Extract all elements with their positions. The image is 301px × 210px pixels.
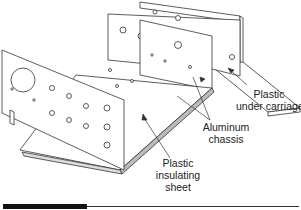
footer-bar: [3, 204, 87, 209]
label-line: under carriage: [236, 100, 301, 112]
label-plastic-insulating-sheet: Plastic insulating sheet: [148, 157, 208, 193]
label-line: sheet: [148, 181, 208, 193]
label-aluminum-chassis: Aluminum chassis: [196, 121, 256, 145]
label-line: chassis: [196, 133, 256, 145]
label-line: insulating: [148, 169, 208, 181]
footer-rule: [87, 206, 299, 207]
label-plastic-under-carriage: Plastic under carriage: [236, 88, 301, 112]
label-line: Aluminum: [196, 121, 256, 133]
label-line: Plastic: [148, 157, 208, 169]
label-line: Plastic: [236, 88, 301, 100]
